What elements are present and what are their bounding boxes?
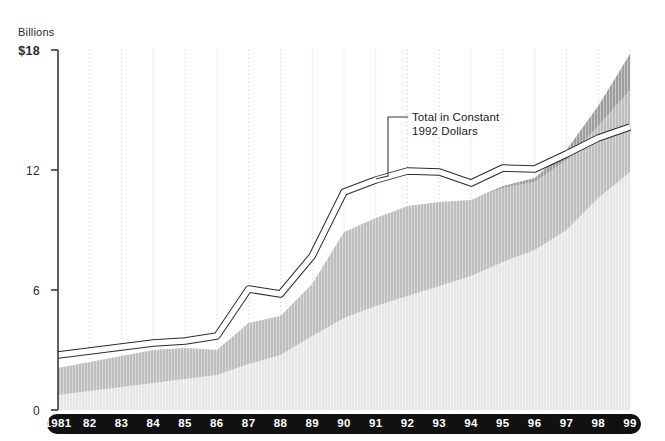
annotation-label: Total in Constant 1992 Dollars: [412, 110, 499, 138]
x-axis-label: 99: [610, 417, 650, 429]
plot-area: [0, 0, 665, 441]
chart-container: Billions $18 12 6 0 Total in Constant 19…: [0, 0, 665, 441]
y-axis-tick-marks: [51, 50, 58, 410]
